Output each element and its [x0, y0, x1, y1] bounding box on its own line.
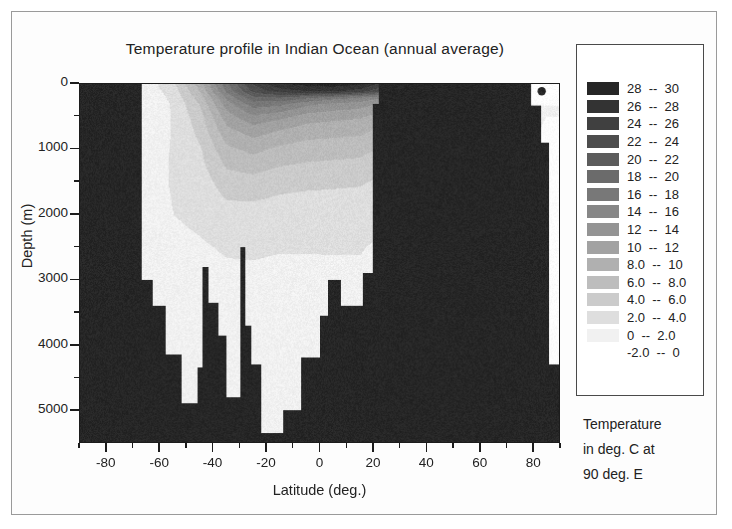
legend-color-swatch: [587, 205, 619, 218]
x-tick-label: -80: [76, 455, 136, 470]
figure-root: Temperature profile in Indian Ocean (ann…: [0, 0, 732, 529]
legend-entry-label: 2.0 -- 4.0: [627, 310, 686, 325]
y-tick-mark: [70, 148, 79, 150]
legend-entry-label: 14 -- 16: [627, 204, 679, 219]
legend-color-swatch: [587, 241, 619, 254]
legend-caption-line: in deg. C at: [583, 437, 723, 462]
legend-entry-label: 20 -- 22: [627, 152, 679, 167]
legend-entry-label: 12 -- 14: [627, 222, 679, 237]
y-tick-label: 4000: [16, 336, 68, 351]
legend-panel: 28 -- 3026 -- 2824 -- 2622 -- 2420 -- 22…: [576, 44, 704, 396]
x-tick-label: -20: [236, 455, 296, 470]
y-minor-tick: [74, 377, 79, 378]
x-minor-tick: [132, 443, 133, 448]
legend-entry: 0 -- 2.0: [587, 326, 699, 344]
legend-color-swatch: [587, 100, 619, 113]
legend-entry-label: 18 -- 20: [627, 169, 679, 184]
legend-entry-label: 10 -- 12: [627, 240, 679, 255]
x-minor-tick: [452, 443, 453, 448]
x-tick-mark: [426, 443, 428, 452]
legend-entries: 28 -- 3026 -- 2824 -- 2622 -- 2420 -- 22…: [587, 80, 699, 362]
x-minor-tick: [292, 443, 293, 448]
y-minor-tick: [74, 115, 79, 116]
legend-color-swatch: [587, 276, 619, 289]
legend-color-swatch: [587, 153, 619, 166]
legend-entry: 22 -- 24: [587, 133, 699, 151]
x-minor-tick: [559, 443, 560, 448]
x-tick-mark: [372, 443, 374, 452]
y-minor-tick: [74, 246, 79, 247]
legend-color-swatch: [587, 82, 619, 95]
x-minor-tick: [399, 443, 400, 448]
legend-entry: 24 -- 26: [587, 115, 699, 133]
y-tick-mark: [70, 409, 79, 411]
x-tick-label: 80: [503, 455, 563, 470]
legend-entry: 10 -- 12: [587, 238, 699, 256]
legend-entry-label: 16 -- 18: [627, 187, 679, 202]
y-tick-label: 5000: [16, 401, 68, 416]
x-minor-tick: [78, 443, 79, 448]
x-tick-label: -60: [129, 455, 189, 470]
legend-entry: 20 -- 22: [587, 150, 699, 168]
plot-area: [79, 83, 560, 443]
x-tick-label: 60: [450, 455, 510, 470]
legend-color-swatch: [587, 117, 619, 130]
legend-entry: 6.0 -- 8.0: [587, 274, 699, 292]
legend-color-swatch: [587, 258, 619, 271]
legend-caption-line: 90 deg. E: [583, 462, 723, 487]
legend-color-swatch: [587, 293, 619, 306]
y-tick-mark: [70, 82, 79, 84]
x-tick-mark: [212, 443, 214, 452]
legend-entry: 4.0 -- 6.0: [587, 291, 699, 309]
legend-entry: 12 -- 14: [587, 221, 699, 239]
y-tick-mark: [70, 344, 79, 346]
x-axis-title: Latitude (deg.): [79, 482, 560, 498]
x-tick-mark: [105, 443, 107, 452]
x-tick-label: -40: [183, 455, 243, 470]
x-minor-tick: [506, 443, 507, 448]
legend-entry: 14 -- 16: [587, 203, 699, 221]
legend-entry-label: 8.0 -- 10: [627, 257, 683, 272]
x-minor-tick: [239, 443, 240, 448]
temperature-contour-canvas: [80, 84, 559, 442]
legend-entry-label: 6.0 -- 8.0: [627, 275, 686, 290]
page-title: Temperature profile in Indian Ocean (ann…: [60, 40, 570, 58]
legend-caption-line: Temperature: [583, 412, 723, 437]
legend-caption: Temperaturein deg. C at90 deg. E: [583, 412, 723, 487]
x-tick-label: 0: [290, 455, 350, 470]
y-minor-tick: [74, 180, 79, 181]
legend-entry-label: 24 -- 26: [627, 116, 679, 131]
x-tick-label: 40: [396, 455, 456, 470]
y-axis-title: Depth (m): [19, 146, 35, 326]
legend-entry-label: 0 -- 2.0: [627, 328, 675, 343]
legend-color-swatch: [587, 170, 619, 183]
x-tick-mark: [479, 443, 481, 452]
legend-entry-label: 4.0 -- 6.0: [627, 292, 686, 307]
y-tick-mark: [70, 213, 79, 215]
legend-entry: 18 -- 20: [587, 168, 699, 186]
x-minor-tick: [346, 443, 347, 448]
x-tick-mark: [265, 443, 267, 452]
legend-color-swatch: [587, 188, 619, 201]
legend-entry-label: 26 -- 28: [627, 99, 679, 114]
x-tick-mark: [319, 443, 321, 452]
x-tick-mark: [532, 443, 534, 452]
y-minor-tick: [74, 311, 79, 312]
legend-entry-label: 22 -- 24: [627, 134, 679, 149]
legend-entry: 8.0 -- 10: [587, 256, 699, 274]
x-tick-mark: [158, 443, 160, 452]
legend-entry-label: 28 -- 30: [627, 81, 679, 96]
legend-color-swatch: [587, 329, 619, 342]
legend-color-swatch: [587, 223, 619, 236]
x-minor-tick: [185, 443, 186, 448]
y-tick-mark: [70, 279, 79, 281]
legend-entry: 16 -- 18: [587, 186, 699, 204]
legend-entry: 26 -- 28: [587, 98, 699, 116]
legend-color-swatch: [587, 311, 619, 324]
legend-entry: 2.0 -- 4.0: [587, 309, 699, 327]
y-tick-label: 0: [16, 74, 68, 89]
legend-entry-label: -2.0 -- 0: [627, 345, 680, 360]
x-tick-label: 20: [343, 455, 403, 470]
legend-color-swatch: [587, 346, 619, 359]
legend-entry: -2.0 -- 0: [587, 344, 699, 362]
